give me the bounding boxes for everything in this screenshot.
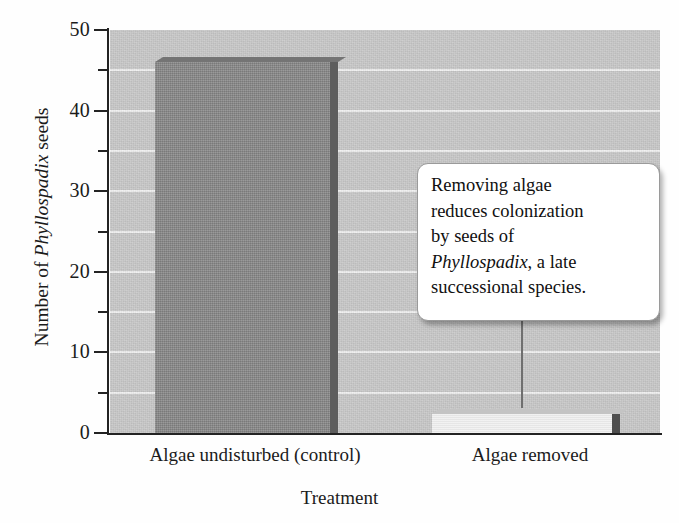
bar-face — [155, 62, 330, 433]
y-tick-minor-25 — [98, 231, 107, 233]
y-tick-minor-15 — [98, 311, 107, 313]
y-tick-major-50 — [94, 29, 107, 31]
bar-top-face — [155, 57, 346, 62]
y-tick-label-0: 0 — [44, 422, 90, 442]
annotation-line-2: reduces colonization — [431, 199, 648, 225]
bar-chart-figure: 01020304050 Number of Phyllospadix seeds… — [0, 0, 679, 523]
y-tick-major-10 — [94, 351, 107, 353]
y-tick-major-20 — [94, 271, 107, 273]
y-axis-title-suffix: seeds — [31, 108, 52, 155]
category-label-algae-undisturbed: Algae undisturbed (control) — [110, 444, 400, 466]
x-axis-title: Treatment — [0, 487, 679, 509]
bar-algae-undisturbed[interactable] — [155, 62, 330, 433]
bar-face — [432, 414, 612, 433]
y-axis-title-italic: Phyllospadix — [31, 155, 52, 257]
y-tick-major-0 — [94, 432, 107, 434]
annotation-line-4-rest: , a late — [528, 252, 577, 272]
y-axis-title: Number of Phyllospadix seeds — [31, 47, 53, 407]
y-tick-minor-5 — [98, 392, 107, 394]
annotation-line-4: Phyllospadix, a late — [431, 250, 648, 276]
annotation-line-5: successional species. — [431, 275, 648, 301]
x-axis-line — [107, 433, 662, 435]
bar-side-face — [330, 62, 338, 433]
annotation-callout-box: Removing algae reduces colonization by s… — [417, 163, 660, 321]
bar-top-face — [432, 409, 628, 414]
y-axis-title-prefix: Number of — [31, 257, 52, 347]
bar-algae-removed[interactable] — [432, 414, 612, 433]
y-tick-major-40 — [94, 110, 107, 112]
annotation-connector-line — [521, 318, 523, 408]
bar-side-face — [612, 414, 620, 433]
y-tick-label-50: 50 — [44, 19, 90, 39]
annotation-line-1: Removing algae — [431, 173, 648, 199]
annotation-line-3: by seeds of — [431, 224, 648, 250]
y-tick-major-30 — [94, 190, 107, 192]
annotation-text: Removing algae reduces colonization by s… — [431, 173, 648, 301]
category-label-algae-removed: Algae removed — [400, 444, 660, 466]
y-axis-line — [107, 28, 109, 435]
y-tick-minor-45 — [98, 69, 107, 71]
y-tick-minor-35 — [98, 150, 107, 152]
annotation-species-name: Phyllospadix — [431, 252, 528, 272]
